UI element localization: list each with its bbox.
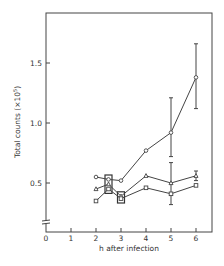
series-line-circles: [96, 77, 196, 180]
x-tick-label: 3: [119, 234, 124, 243]
square-marker: [144, 186, 148, 190]
circle-marker: [107, 178, 111, 182]
x-axis-title: h after infection: [99, 244, 159, 253]
x-tick-label: 0: [44, 234, 49, 243]
x-tick-label: 5: [169, 234, 174, 243]
square-marker: [107, 187, 111, 191]
y-tick-label: 0.5: [30, 179, 42, 188]
circle-marker: [144, 149, 148, 153]
plot-frame: [42, 13, 212, 232]
triangle-marker: [94, 187, 98, 191]
triangle-marker: [169, 181, 173, 185]
axis-break-mark: [42, 220, 50, 221]
circle-marker: [169, 131, 173, 135]
circle-marker: [119, 179, 123, 183]
plot-border: [46, 13, 212, 232]
line-chart: 01234560.51.01.5 h after infection Total…: [0, 0, 224, 266]
square-marker: [119, 197, 123, 201]
y-tick-label: 1.0: [30, 119, 42, 128]
triangle-marker: [107, 182, 111, 186]
x-tick-label: 1: [69, 234, 74, 243]
triangle-marker: [194, 174, 198, 178]
x-tick-label: 4: [144, 234, 149, 243]
square-marker: [94, 199, 98, 203]
circle-marker: [194, 76, 198, 80]
y-tick-label: 1.5: [30, 59, 42, 68]
axis-ticks: 01234560.51.01.5: [30, 59, 199, 244]
data-series: [94, 44, 198, 205]
y-axis-title: Total counts (×105): [12, 86, 22, 159]
x-tick-label: 2: [94, 234, 99, 243]
square-marker: [194, 184, 198, 188]
circle-marker: [94, 175, 98, 179]
square-marker: [169, 192, 173, 196]
x-tick-label: 6: [194, 234, 199, 243]
triangle-marker: [144, 174, 148, 178]
